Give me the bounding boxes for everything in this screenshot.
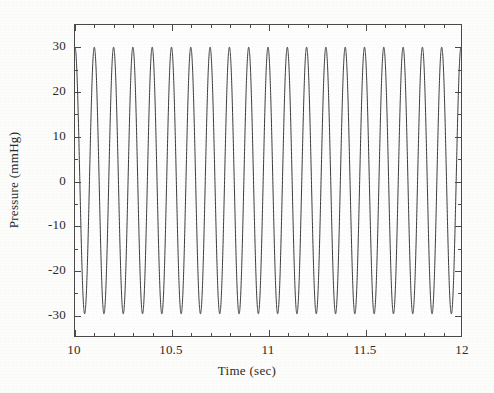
x-minor-tick-mark xyxy=(444,25,445,28)
x-minor-tick-mark xyxy=(211,25,212,28)
y-tick-mark xyxy=(455,47,461,48)
y-tick-label: 20 xyxy=(53,83,66,99)
x-minor-tick-mark xyxy=(114,25,115,28)
x-tick-label: 10.5 xyxy=(159,342,183,358)
x-minor-tick-mark xyxy=(424,333,425,336)
x-minor-tick-mark xyxy=(347,333,348,336)
y-minor-tick-mark xyxy=(458,204,461,205)
x-minor-tick-mark xyxy=(153,25,154,28)
x-minor-tick-mark xyxy=(250,333,251,336)
x-minor-tick-mark xyxy=(288,25,289,28)
y-minor-tick-mark xyxy=(458,293,461,294)
x-tick-mark xyxy=(75,25,76,31)
x-minor-tick-mark xyxy=(133,25,134,28)
x-axis-label: Time (sec) xyxy=(0,363,494,379)
x-minor-tick-mark xyxy=(308,25,309,28)
x-minor-tick-mark xyxy=(211,333,212,336)
y-tick-mark xyxy=(455,226,461,227)
x-tick-mark xyxy=(366,330,367,336)
x-minor-tick-mark xyxy=(347,25,348,28)
y-minor-tick-mark xyxy=(75,70,78,71)
x-minor-tick-mark xyxy=(230,25,231,28)
x-minor-tick-mark xyxy=(114,333,115,336)
y-tick-label: 30 xyxy=(53,38,66,54)
x-minor-tick-mark xyxy=(308,333,309,336)
y-minor-tick-mark xyxy=(75,159,78,160)
x-minor-tick-mark xyxy=(230,333,231,336)
waveform-series xyxy=(75,25,461,336)
x-minor-tick-mark xyxy=(385,333,386,336)
y-tick-mark xyxy=(75,271,81,272)
x-tick-mark xyxy=(75,330,76,336)
pressure-waveform-line xyxy=(75,47,461,314)
x-minor-tick-mark xyxy=(133,333,134,336)
x-minor-tick-mark xyxy=(94,333,95,336)
x-minor-tick-mark xyxy=(288,333,289,336)
x-tick-mark xyxy=(172,25,173,31)
y-minor-tick-mark xyxy=(75,204,78,205)
plot-area xyxy=(74,24,462,337)
y-tick-mark xyxy=(75,47,81,48)
x-tick-mark xyxy=(366,25,367,31)
y-minor-tick-mark xyxy=(458,159,461,160)
x-minor-tick-mark xyxy=(94,25,95,28)
y-tick-mark xyxy=(455,316,461,317)
x-minor-tick-mark xyxy=(153,333,154,336)
x-tick-label: 11 xyxy=(262,342,275,358)
y-minor-tick-mark xyxy=(458,70,461,71)
y-minor-tick-mark xyxy=(458,249,461,250)
y-minor-tick-mark xyxy=(458,114,461,115)
x-tick-label: 12 xyxy=(455,342,468,358)
x-minor-tick-mark xyxy=(191,25,192,28)
y-minor-tick-mark xyxy=(75,249,78,250)
x-minor-tick-mark xyxy=(405,25,406,28)
y-tick-mark xyxy=(455,137,461,138)
figure-canvas: 3020100-10-20-30 1010.51111.512 Time (se… xyxy=(0,0,494,393)
x-minor-tick-mark xyxy=(327,333,328,336)
y-minor-tick-mark xyxy=(75,293,78,294)
y-tick-label: 10 xyxy=(53,128,66,144)
y-tick-mark xyxy=(455,92,461,93)
y-tick-label: 0 xyxy=(59,173,66,189)
x-tick-label: 11.5 xyxy=(353,342,376,358)
y-tick-mark xyxy=(75,92,81,93)
y-tick-mark xyxy=(75,137,81,138)
x-tick-mark xyxy=(269,330,270,336)
y-tick-mark xyxy=(75,182,81,183)
y-minor-tick-mark xyxy=(75,114,78,115)
y-tick-mark xyxy=(455,271,461,272)
y-tick-label: -30 xyxy=(48,307,66,323)
x-tick-mark xyxy=(269,25,270,31)
y-tick-mark xyxy=(75,316,81,317)
x-minor-tick-mark xyxy=(250,25,251,28)
y-axis-label: Pressure (mmHg) xyxy=(6,132,22,229)
x-minor-tick-mark xyxy=(424,25,425,28)
x-minor-tick-mark xyxy=(444,333,445,336)
y-tick-mark xyxy=(75,226,81,227)
x-minor-tick-mark xyxy=(405,333,406,336)
x-tick-mark xyxy=(172,330,173,336)
y-tick-mark xyxy=(455,182,461,183)
y-tick-label: -20 xyxy=(48,262,66,278)
y-tick-label: -10 xyxy=(48,217,66,233)
x-minor-tick-mark xyxy=(327,25,328,28)
x-tick-label: 10 xyxy=(67,342,80,358)
x-minor-tick-mark xyxy=(191,333,192,336)
x-minor-tick-mark xyxy=(385,25,386,28)
